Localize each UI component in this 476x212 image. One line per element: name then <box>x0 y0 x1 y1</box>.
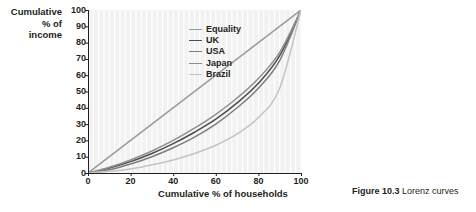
figure-caption-text: Lorenz curves <box>402 186 459 196</box>
y-tick-label: 10 <box>60 152 86 161</box>
legend-item: Japan <box>189 58 269 69</box>
figure-caption: Figure 10.3 Lorenz curves <box>352 186 476 197</box>
y-tick-label: 40 <box>60 103 86 112</box>
legend-item-label: UK <box>206 35 219 46</box>
x-tick-label: 80 <box>243 176 273 186</box>
legend-item: Equality <box>189 24 269 35</box>
legend-swatch-icon <box>189 51 202 52</box>
x-tick-label: 60 <box>201 176 231 186</box>
y-tick-label: 100 <box>60 6 86 15</box>
lorenz-curves-figure: Cumulative % of income 10090807060504030… <box>0 0 476 212</box>
y-tick-label: 20 <box>60 136 86 145</box>
x-tick-label: 0 <box>73 176 103 186</box>
legend-item: USA <box>189 46 269 57</box>
plot-area: EqualityUKUSAJapanBrazil <box>88 10 301 173</box>
legend-item: Brazil <box>189 69 269 80</box>
y-tick-label: 70 <box>60 54 86 63</box>
x-tick-label: 20 <box>116 176 146 186</box>
legend-swatch-icon <box>189 63 202 64</box>
legend-item-label: Japan <box>206 58 232 69</box>
legend-swatch-icon <box>189 74 202 75</box>
legend-item: UK <box>189 35 269 46</box>
chart-legend: EqualityUKUSAJapanBrazil <box>189 24 269 80</box>
legend-item-label: Equality <box>206 24 241 35</box>
legend-item-label: Brazil <box>206 69 231 80</box>
figure-caption-label: Figure 10.3 <box>352 186 400 196</box>
y-axis-label: Cumulative % of income <box>0 6 62 41</box>
y-axis-ticks: 1009080706050403020100 <box>58 0 86 173</box>
y-tick-label: 90 <box>60 22 86 31</box>
y-tick-label: 80 <box>60 38 86 47</box>
y-tick-label: 60 <box>60 71 86 80</box>
legend-swatch-icon <box>189 40 202 41</box>
y-axis-label-line-2: % of <box>0 18 62 30</box>
y-tick-label: 50 <box>60 87 86 96</box>
y-axis-label-line-3: income <box>0 29 62 41</box>
x-axis-label: Cumulative % of households <box>108 188 338 199</box>
legend-item-label: USA <box>206 46 225 57</box>
legend-swatch-icon <box>189 29 202 30</box>
x-tick-label: 100 <box>286 176 316 186</box>
x-tick-label: 40 <box>158 176 188 186</box>
x-axis-ticks: 020406080100 <box>88 176 301 188</box>
y-axis-label-line-1: Cumulative <box>0 6 62 18</box>
y-tick-label: 30 <box>60 120 86 129</box>
